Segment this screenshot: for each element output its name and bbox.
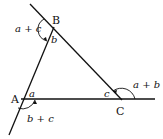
vertex-label-b: B [52,14,60,27]
vertex-label-c: C [116,105,124,118]
exterior-angle-label-b: a + c [15,23,42,34]
interior-angle-c: c [104,88,110,99]
exterior-angle-label-a: b + c [27,113,54,124]
vertex-label-a: A [10,93,20,106]
arrowhead-a [33,100,37,104]
exterior-angle-label-c: a + b [133,79,160,90]
triangle-diagram: B A C b a c a + c b + c a + b [0,0,163,139]
interior-angle-b: b [51,34,57,45]
interior-angle-a: a [29,88,35,99]
